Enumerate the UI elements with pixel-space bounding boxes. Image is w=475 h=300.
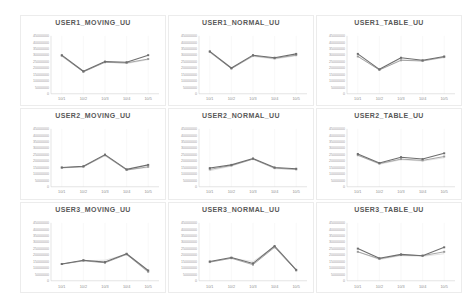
- y-tick-label: 10000000: [181, 266, 197, 270]
- x-tick-label: 10/3: [101, 191, 108, 195]
- x-axis-ticks: 10/110/210/310/410/5: [58, 191, 152, 195]
- data-point-marker: [61, 54, 63, 56]
- data-point-marker: [357, 55, 359, 57]
- chart-panel: USER3_NORMAL_UU4500000040000000350000003…: [168, 202, 314, 293]
- data-point-marker: [209, 260, 211, 262]
- x-tick-label: 10/5: [145, 191, 152, 195]
- y-axis-ticks: 4500000040000000350000003000000025000000…: [181, 34, 197, 96]
- y-tick-label: 10000000: [329, 79, 345, 83]
- data-point-marker: [104, 61, 106, 63]
- y-tick-label: 35000000: [33, 47, 49, 51]
- chart-panel: USER2_NORMAL_UU4500000040000000350000003…: [168, 108, 314, 199]
- y-tick-label: 5000000: [331, 86, 345, 90]
- y-tick-label: 35000000: [33, 234, 49, 238]
- y-tick-label: 5000000: [35, 179, 49, 183]
- x-tick-label: 10/3: [249, 98, 256, 102]
- y-tick-label: 15000000: [181, 73, 197, 77]
- x-tick-label: 10/3: [397, 98, 404, 102]
- chart-panel: USER2_MOVING_UU4500000040000000350000003…: [20, 108, 166, 199]
- x-tick-label: 10/2: [228, 284, 235, 288]
- y-tick-label: 0: [195, 279, 197, 283]
- data-point-marker: [147, 58, 149, 60]
- chart-plot: 4500000040000000350000003000000025000000…: [317, 219, 461, 292]
- y-tick-label: 15000000: [33, 73, 49, 77]
- gridlines: [62, 223, 148, 281]
- x-tick-label: 10/3: [249, 191, 256, 195]
- x-tick-label: 10/2: [228, 191, 235, 195]
- y-tick-label: 0: [343, 92, 345, 96]
- y-tick-label: 0: [343, 279, 345, 283]
- data-point-marker: [252, 158, 254, 160]
- x-tick-label: 10/1: [58, 284, 65, 288]
- chart-plot: 4500000040000000350000003000000025000000…: [21, 219, 165, 292]
- y-tick-label: 30000000: [33, 240, 49, 244]
- y-tick-label: 15000000: [33, 259, 49, 263]
- y-tick-label: 25000000: [181, 60, 197, 64]
- data-point-marker: [378, 257, 380, 259]
- y-tick-label: 0: [47, 92, 49, 96]
- x-tick-label: 10/5: [145, 284, 152, 288]
- y-tick-label: 30000000: [329, 147, 345, 151]
- charts-grid: USER1_MOVING_UU4500000040000000350000003…: [20, 15, 462, 293]
- y-tick-label: 30000000: [181, 53, 197, 57]
- data-point-marker: [400, 59, 402, 61]
- x-tick-label: 10/5: [293, 284, 300, 288]
- chart-plot: 4500000040000000350000003000000025000000…: [317, 125, 461, 198]
- x-tick-label: 10/4: [419, 191, 426, 195]
- data-point-marker: [443, 153, 445, 155]
- y-tick-label: 30000000: [329, 53, 345, 57]
- data-point-marker: [274, 245, 276, 247]
- y-tick-label: 30000000: [181, 240, 197, 244]
- y-tick-label: 10000000: [329, 173, 345, 177]
- y-tick-label: 40000000: [329, 134, 345, 138]
- chart-plot: 4500000040000000350000003000000025000000…: [169, 32, 313, 105]
- y-tick-label: 35000000: [329, 234, 345, 238]
- data-point-marker: [378, 68, 380, 70]
- x-axis-ticks: 10/110/210/310/410/5: [354, 98, 448, 102]
- x-axis-ticks: 10/110/210/310/410/5: [354, 191, 448, 195]
- y-tick-label: 40000000: [181, 41, 197, 45]
- y-tick-label: 20000000: [329, 66, 345, 70]
- y-tick-label: 25000000: [329, 153, 345, 157]
- x-tick-label: 10/2: [376, 98, 383, 102]
- x-tick-label: 10/5: [441, 284, 448, 288]
- y-tick-label: 20000000: [181, 66, 197, 70]
- y-tick-label: 25000000: [33, 60, 49, 64]
- y-tick-label: 25000000: [329, 247, 345, 251]
- gridlines: [62, 129, 148, 187]
- x-axis-ticks: 10/110/210/310/410/5: [206, 191, 300, 195]
- chart-title: USER2_TABLE_UU: [317, 109, 461, 125]
- y-tick-label: 20000000: [329, 160, 345, 164]
- y-tick-label: 35000000: [181, 47, 197, 51]
- x-tick-label: 10/4: [271, 98, 278, 102]
- data-point-marker: [147, 54, 149, 56]
- y-axis-ticks: 4500000040000000350000003000000025000000…: [329, 221, 345, 283]
- y-tick-label: 20000000: [181, 160, 197, 164]
- data-point-marker: [422, 254, 424, 256]
- chart-title: USER3_MOVING_UU: [21, 203, 165, 219]
- y-tick-label: 15000000: [329, 73, 345, 77]
- x-axis-ticks: 10/110/210/310/410/5: [206, 284, 300, 288]
- data-point-marker: [147, 269, 149, 271]
- data-point-marker: [82, 166, 84, 168]
- y-tick-label: 25000000: [329, 60, 345, 64]
- y-tick-label: 45000000: [329, 34, 345, 38]
- y-tick-label: 45000000: [181, 127, 197, 131]
- y-tick-label: 20000000: [33, 253, 49, 257]
- data-point-marker: [274, 167, 276, 169]
- data-point-marker: [357, 247, 359, 249]
- x-tick-label: 10/5: [441, 191, 448, 195]
- y-tick-label: 30000000: [329, 240, 345, 244]
- y-tick-label: 30000000: [33, 147, 49, 151]
- chart-plot: 4500000040000000350000003000000025000000…: [21, 32, 165, 105]
- chart-panel: USER1_TABLE_UU45000000400000003500000030…: [316, 15, 462, 106]
- y-tick-label: 25000000: [33, 153, 49, 157]
- x-tick-label: 10/3: [101, 98, 108, 102]
- data-point-marker: [295, 269, 297, 271]
- data-point-marker: [357, 251, 359, 253]
- y-tick-label: 30000000: [33, 53, 49, 57]
- y-tick-label: 10000000: [329, 266, 345, 270]
- x-tick-label: 10/2: [228, 98, 235, 102]
- y-tick-label: 10000000: [33, 79, 49, 83]
- y-tick-label: 25000000: [181, 247, 197, 251]
